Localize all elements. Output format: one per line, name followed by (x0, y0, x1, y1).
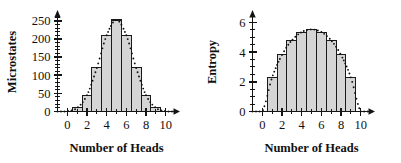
curve-dot (112, 22, 114, 24)
curve-dot (82, 101, 84, 103)
curve-dot (102, 47, 104, 49)
curve-dot (317, 30, 319, 32)
curve-dot (306, 29, 308, 31)
curve-dot (134, 62, 136, 64)
microstates-xlabel: Number of Heads (69, 141, 163, 155)
curve-dot (145, 94, 147, 96)
curve-dot (333, 43, 335, 45)
x-tick-label: 0 (64, 118, 70, 132)
curve-dot (294, 36, 296, 38)
curve-dot (263, 105, 265, 107)
x-tick-label: 2 (279, 118, 285, 132)
curve-dot (142, 88, 144, 90)
curve-dot (276, 64, 278, 66)
microstates-plot: 050100150200250 0246810 Microstates Numb… (0, 0, 200, 163)
curve-dot (127, 38, 129, 40)
curve-dot (303, 30, 305, 32)
microstates-xtick-labels: 0246810 (64, 118, 172, 132)
curve-dot (275, 67, 277, 69)
curve-dot (80, 104, 82, 106)
x-tick-label: 4 (299, 118, 306, 132)
curve-dot (356, 98, 358, 100)
curve-dot (120, 24, 122, 26)
entropy-xlabel: Number of Heads (264, 141, 358, 155)
curve-dot (89, 88, 91, 90)
curve-dot (107, 31, 109, 33)
curve-dot (331, 40, 333, 42)
curve-dot (357, 103, 359, 105)
curve-dot (265, 100, 267, 102)
curve-dot (339, 53, 341, 55)
curve-dot (93, 76, 95, 78)
curve-dot (87, 91, 89, 93)
curve-dot (351, 81, 353, 83)
x-tick-label: 6 (123, 118, 129, 132)
bar (112, 20, 122, 111)
y-tick-label: 100 (32, 69, 51, 83)
microstates-bars (62, 20, 170, 111)
curve-dot (279, 58, 281, 60)
y-tick-label: 6 (239, 16, 245, 30)
figure-container: 050100150200250 0246810 Microstates Numb… (0, 0, 401, 163)
curve-dot (130, 47, 132, 49)
curve-dot (354, 92, 356, 94)
curve-dot (141, 84, 143, 86)
curve-dot (151, 104, 153, 106)
bar (277, 55, 287, 112)
curve-dot (123, 28, 125, 30)
curve-dot (106, 34, 108, 36)
curve-dot (110, 25, 112, 27)
entropy-plot: 0246 0246810 Entropy Number of Heads (200, 0, 400, 163)
curve-dot (326, 35, 328, 37)
bar (346, 77, 356, 111)
bar (287, 40, 297, 111)
x-tick-label: 8 (143, 118, 149, 132)
curve-dot (271, 79, 273, 81)
curve-dot (77, 106, 79, 108)
curve-dot (346, 66, 348, 68)
curve-dot (147, 98, 149, 100)
y-axis-arrowhead (249, 10, 255, 18)
curve-dot (139, 80, 141, 82)
curve-dot (297, 33, 299, 35)
curve-dot (84, 98, 86, 100)
curve-dot (337, 49, 339, 51)
curve-dot (94, 71, 96, 73)
bar (131, 68, 141, 112)
curve-dot (347, 69, 349, 71)
entropy-xtick-labels: 0246810 (259, 118, 367, 132)
curve-dot (104, 38, 106, 40)
bar (121, 35, 131, 111)
entropy-bars (267, 29, 356, 111)
curve-dot (135, 67, 137, 69)
x-axis-arrowhead (369, 108, 376, 114)
curve-dot (268, 89, 270, 91)
curve-dot (300, 32, 302, 34)
curve-dot (99, 58, 101, 60)
x-tick-label: 4 (104, 118, 111, 132)
y-tick-label: 50 (38, 87, 51, 101)
curve-dot (157, 108, 159, 110)
x-tick-label: 0 (259, 118, 265, 132)
curve-dot (272, 74, 274, 76)
curve-dot (137, 71, 139, 73)
curve-dot (97, 62, 99, 64)
curve-dot (350, 76, 352, 78)
x-tick-label: 6 (318, 118, 324, 132)
curve-dot (138, 76, 140, 78)
curve-dot (100, 52, 102, 54)
curve-dot (103, 43, 105, 45)
curve-dot (86, 94, 88, 96)
y-tick-label: 150 (32, 50, 51, 64)
curve-dot (329, 38, 331, 40)
curve-dot (269, 84, 271, 86)
y-tick-label: 0 (239, 105, 245, 119)
curve-dot (96, 67, 98, 69)
curve-dot (131, 52, 133, 54)
curve-dot (348, 73, 350, 75)
curve-dot (323, 33, 325, 35)
curve-dot (124, 31, 126, 33)
bar (316, 32, 326, 111)
curve-dot (335, 46, 337, 48)
curve-dot (74, 108, 76, 110)
